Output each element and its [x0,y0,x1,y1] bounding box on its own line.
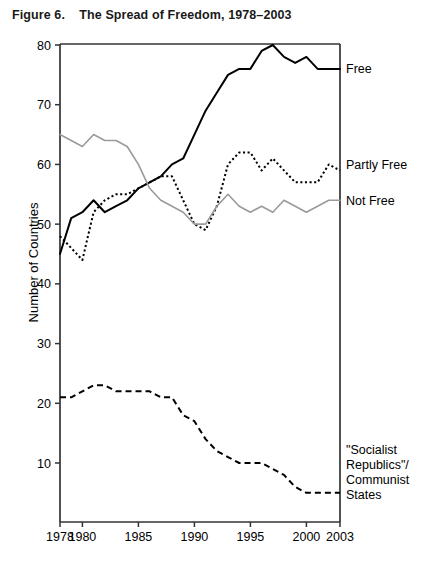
x-tick-label: 1995 [236,530,264,544]
line-chart-plot: 1020304050607080 19781980198519901995200… [0,0,436,574]
series-label-free: Free [346,62,372,76]
figure-container: Figure 6. The Spread of Freedom, 1978–20… [0,0,436,574]
series-label-not-free: Not Free [346,194,395,208]
series-label-socialist-republics-communist-states: "Socialist [346,443,398,457]
series-label-group: FreePartly FreeNot Free"SocialistRepubli… [346,62,410,501]
series-label-socialist-republics-communist-states: Republics"/ [346,458,409,472]
y-tick-label: 10 [37,457,51,471]
y-tick-label: 60 [37,158,51,172]
series-label-socialist-republics-communist-states: Communist [346,473,410,487]
x-tick-label: 1990 [180,530,208,544]
series-line-free [60,45,340,254]
y-tick-label: 70 [37,98,51,112]
y-tick-label: 50 [37,218,51,232]
x-tick-label: 1985 [124,530,152,544]
series-label-partly-free: Partly Free [346,158,407,172]
series-group [60,45,340,493]
y-tick-label: 30 [37,337,51,351]
series-label-socialist-republics-communist-states: States [346,488,381,502]
x-tick-label: 2000 [292,530,320,544]
x-tick-group: 1978198019851990199520002003 [46,522,354,544]
series-line-partly-free [60,152,340,259]
y-tick-label: 40 [37,277,51,291]
series-line-not-free [60,135,340,225]
series-line-socialist-republics-communist-states [60,385,340,492]
axis-group [60,44,340,522]
x-tick-label: 1980 [68,530,96,544]
y-tick-label: 20 [37,397,51,411]
x-tick-label: 2003 [326,530,354,544]
y-tick-label: 80 [37,39,51,53]
y-tick-group: 1020304050607080 [37,39,60,471]
